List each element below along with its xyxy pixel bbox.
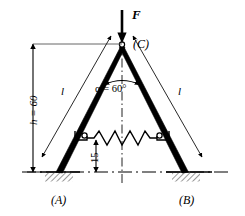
mechanics-figure: F (C) α = 60° l l h = 60 15 (A) (B) xyxy=(0,0,245,216)
spring-height-dimension-label: 15 xyxy=(90,153,101,164)
left-bar-length-label: l xyxy=(61,86,64,97)
right-support-label: (B) xyxy=(179,194,194,206)
right-bar-length-label: l xyxy=(178,86,181,97)
dimension-h xyxy=(27,44,122,172)
height-dimension-label: h = 60 xyxy=(28,96,39,125)
force-label: F xyxy=(132,8,141,21)
apex-label-C: (C) xyxy=(133,38,149,50)
right-bar-BC xyxy=(119,46,188,174)
left-support-label: (A) xyxy=(51,194,66,206)
down-arrow-icon xyxy=(117,10,126,44)
angle-label: α = 60° xyxy=(95,84,126,95)
